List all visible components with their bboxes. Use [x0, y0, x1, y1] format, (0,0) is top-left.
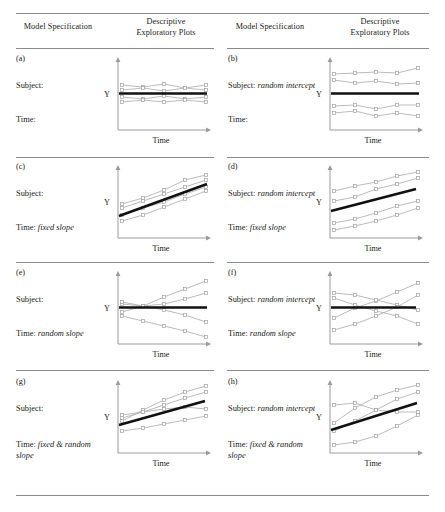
panel-b-subject-label: Subject: [228, 81, 255, 90]
panel-b-time-spec: Time: [228, 114, 324, 125]
rule-top [16, 13, 429, 14]
header-descriptive-plots-left: Descriptive Exploratory Plots [116, 17, 216, 38]
panel-d-time-spec: Time: fixed slope [228, 222, 324, 233]
panel-b-time-label: Time: [228, 115, 248, 124]
panel-h-time-label: Time: [228, 440, 248, 449]
panel-a-plot: Y Time [104, 56, 212, 138]
panel-f-x-axis-label: Time [338, 350, 408, 359]
panel-h-y-axis-label: Y [316, 413, 322, 422]
panel-g-plot: Y Time [104, 379, 212, 461]
rule-row2-left [16, 262, 214, 263]
panel-c-plot: Y Time [104, 164, 212, 246]
panel-d-chart-svg [316, 164, 424, 246]
panel-f-subject-spec: Subject: random intercept [228, 294, 324, 305]
panel-e-subject-label: Subject: [16, 295, 43, 304]
panel-e-tag: (e) [16, 268, 25, 277]
panel-e-y-axis-label: Y [104, 304, 110, 313]
panel-f-tag: (f) [228, 268, 236, 277]
panel-h-chart-svg [316, 379, 424, 461]
panel-h-tag: (h) [228, 377, 238, 386]
panel-a-time-spec: Time: [16, 114, 112, 125]
panel-a-subject-spec: Subject: [16, 80, 112, 91]
panel-e-x-axis-label: Time [126, 350, 196, 359]
panel-e-plot: Y Time [104, 270, 212, 352]
panel-f-subject-value: random intercept [258, 295, 316, 304]
panel-b-x-axis-label: Time [338, 136, 408, 145]
panel-e-chart-svg [104, 270, 212, 352]
header-model-specification-right: Model Specification [218, 22, 322, 33]
panel-c-time-value: fixed slope [38, 223, 74, 232]
header-descriptive-plots-right: Descriptive Exploratory Plots [328, 17, 432, 38]
panel-d-subject-value: random intercept [258, 189, 316, 198]
panel-f-y-axis-label: Y [316, 304, 322, 313]
panel-b-subject-value: random intercept [258, 81, 316, 90]
rule-row2-right [227, 262, 429, 263]
panel-b-chart-svg [316, 56, 424, 138]
header-descriptive-plots-left-line1: Descriptive [116, 17, 216, 28]
panel-c-subject-spec: Subject: [16, 188, 112, 199]
rule-row3-right [227, 370, 429, 371]
panel-f-subject-label: Subject: [228, 295, 255, 304]
panel-g-subject-spec: Subject: [16, 403, 112, 414]
panel-d-tag: (d) [228, 162, 238, 171]
panel-a-chart-svg [104, 56, 212, 138]
panel-c-time-label: Time: [16, 223, 36, 232]
panel-h-time-spec: Time: fixed & random slope [228, 439, 308, 461]
panel-e-time-label: Time: [16, 329, 36, 338]
header-descriptive-plots-right-line1: Descriptive [328, 17, 432, 28]
panel-b-plot: Y Time [316, 56, 424, 138]
panel-g-tag: (g) [16, 377, 26, 386]
panel-e-subject-spec: Subject: [16, 294, 112, 305]
panel-d-x-axis-label: Time [338, 244, 408, 253]
panel-d-subject-label: Subject: [228, 189, 255, 198]
panel-f-plot: Y Time [316, 270, 424, 352]
panel-g-y-axis-label: Y [104, 413, 110, 422]
panel-a-subject-label: Subject: [16, 81, 43, 90]
panel-d-time-label: Time: [228, 223, 248, 232]
panel-c-time-spec: Time: fixed slope [16, 222, 112, 233]
panel-c-tag: (c) [16, 162, 25, 171]
panel-c-subject-label: Subject: [16, 189, 43, 198]
panel-a-y-axis-label: Y [104, 90, 110, 99]
panel-c-chart-svg [104, 164, 212, 246]
panel-d-time-value: fixed slope [250, 223, 286, 232]
panel-b-y-axis-label: Y [316, 90, 322, 99]
panel-a-x-axis-label: Time [126, 136, 196, 145]
panel-g-chart-svg [104, 379, 212, 461]
rule-header-left [16, 48, 214, 49]
header-model-specification-left: Model Specification [6, 22, 110, 33]
panel-f-chart-svg [316, 270, 424, 352]
panel-g-time-spec: Time: fixed & random slope [16, 439, 96, 461]
panel-h-x-axis-label: Time [338, 459, 408, 468]
panel-e-time-value: random slope [38, 329, 84, 338]
panel-h-plot: Y Time [316, 379, 424, 461]
rule-row1-right [227, 157, 429, 158]
panel-d-subject-spec: Subject: random intercept [228, 188, 324, 199]
panel-f-time-value: random slope [250, 329, 296, 338]
panel-g-subject-label: Subject: [16, 404, 43, 413]
panel-b-tag: (b) [228, 54, 238, 63]
header-descriptive-plots-right-line2: Exploratory Plots [328, 28, 432, 39]
panel-f-time-label: Time: [228, 329, 248, 338]
header-descriptive-plots-left-line2: Exploratory Plots [116, 28, 216, 39]
panel-d-plot: Y Time [316, 164, 424, 246]
rule-bottom [16, 495, 429, 496]
panel-g-time-label: Time: [16, 440, 36, 449]
panel-c-x-axis-label: Time [126, 244, 196, 253]
rule-row3-left [16, 370, 214, 371]
panel-h-subject-value: random intercept [258, 404, 316, 413]
panel-g-x-axis-label: Time [126, 459, 196, 468]
panel-h-subject-label: Subject: [228, 404, 255, 413]
panel-a-tag: (a) [16, 54, 25, 63]
panel-d-y-axis-label: Y [316, 198, 322, 207]
rule-header-right [227, 48, 429, 49]
figure-container: Model Specification Descriptive Explorat… [0, 0, 445, 512]
panel-a-time-label: Time: [16, 115, 36, 124]
panel-b-subject-spec: Subject: random intercept [228, 80, 324, 91]
rule-row1-left [16, 157, 214, 158]
panel-h-subject-spec: Subject: random intercept [228, 403, 324, 414]
panel-c-y-axis-label: Y [104, 198, 110, 207]
